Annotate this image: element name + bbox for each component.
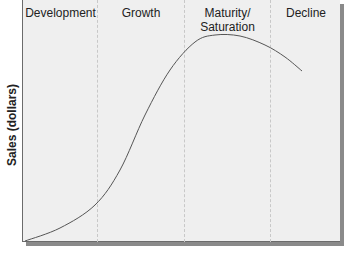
sales-curve <box>0 0 345 253</box>
